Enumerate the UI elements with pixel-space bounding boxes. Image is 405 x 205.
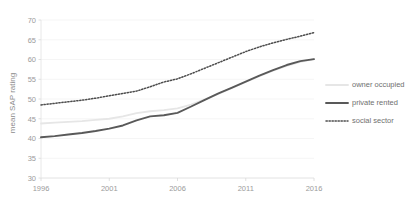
series-group — [41, 33, 314, 138]
x-tick-label: 1996 — [33, 184, 50, 193]
legend-label-social-sector: social sector — [352, 116, 394, 125]
y-tick-label: 55 — [28, 75, 36, 84]
x-tick-label: 2011 — [238, 184, 254, 193]
series-line-private-rented — [41, 59, 314, 137]
x-tick-label: 2016 — [306, 184, 323, 193]
x-tick-label: 2006 — [169, 184, 186, 193]
y-axis-title: mean SAP rating — [8, 73, 17, 133]
y-tick-label: 30 — [28, 174, 36, 183]
chart-canvas: 303540455055606570 19962001200620112016 … — [0, 0, 405, 205]
series-line-owner-occupied — [41, 59, 314, 123]
line-chart: 303540455055606570 19962001200620112016 … — [0, 0, 405, 205]
y-tick-label: 70 — [28, 16, 36, 25]
y-tick-label: 40 — [28, 134, 36, 143]
y-tick-label: 35 — [28, 154, 36, 163]
y-tick-label: 65 — [28, 36, 36, 45]
x-tick-label: 2001 — [101, 184, 118, 193]
y-axis: 303540455055606570 — [28, 16, 41, 183]
series-line-social-sector — [41, 33, 314, 105]
legend-label-private-rented: private rented — [352, 98, 398, 107]
y-tick-label: 45 — [28, 115, 36, 124]
legend-label-owner-occupied: owner occupied — [352, 80, 405, 89]
chart-legend: owner occupiedprivate rentedsocial secto… — [326, 80, 405, 125]
y-tick-label: 60 — [28, 55, 36, 64]
gridlines — [41, 20, 314, 178]
x-axis: 19962001200620112016 — [33, 178, 323, 193]
y-tick-label: 50 — [28, 95, 36, 104]
